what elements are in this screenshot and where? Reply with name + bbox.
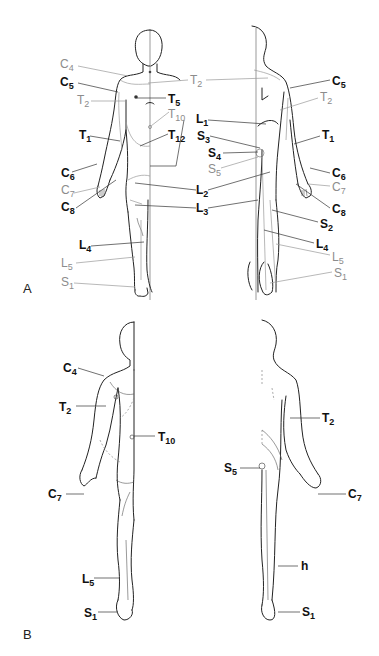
label-a-front-t1: T1	[79, 129, 91, 145]
label-a-back-c7: C7	[332, 181, 346, 197]
label-b-front-c4: C4	[63, 362, 77, 378]
label-b-back-s5: S5	[224, 462, 237, 478]
label-a-back-l4: L4	[316, 238, 328, 254]
panel-a-leader-lines	[72, 66, 332, 287]
label-a-front-c6: C6	[61, 167, 75, 183]
label-a-front-l4: L4	[79, 239, 91, 255]
label-a-back-s1: S1	[334, 267, 347, 283]
label-a-front-l5: L5	[61, 257, 73, 273]
panel-a-back-body	[248, 26, 311, 300]
label-b-front-t2: T2	[59, 401, 71, 417]
label-b-front-c7: C7	[48, 488, 62, 504]
label-a-front-t2: T2	[77, 94, 89, 110]
label-a-center-s3: S3	[197, 130, 210, 146]
label-b-back-h: h	[301, 560, 308, 576]
label-a-front-c5: C5	[60, 76, 74, 92]
label-b-front-t10: T10	[158, 431, 175, 447]
label-a-back-c5: C5	[332, 75, 346, 91]
label-a-back-s2: S2	[320, 218, 333, 234]
label-a-front-t10: T10	[168, 108, 185, 124]
panel-label-a: A	[23, 281, 32, 296]
label-a-center-s5: S5	[208, 163, 221, 179]
label-a-center-s4: S4	[208, 147, 221, 163]
label-a-front-t12: T12	[168, 129, 185, 145]
label-b-front-l5: L5	[82, 573, 94, 589]
label-b-back-t2: T2	[322, 412, 334, 428]
panel-label-b: B	[23, 627, 32, 642]
label-b-front-s1: S1	[84, 607, 97, 623]
label-a-center-l3: L3	[196, 202, 208, 218]
label-a-center-l1: L1	[196, 113, 208, 129]
label-a-back-l5: L5	[332, 251, 344, 267]
label-a-front-c8: C8	[61, 201, 75, 217]
label-a-front-c7: C7	[61, 184, 75, 200]
label-a-back-t1: T1	[322, 129, 334, 145]
label-a-front-s1: S1	[61, 276, 74, 292]
label-b-back-c7: C7	[348, 488, 362, 504]
label-a-center-t2: T2	[190, 74, 202, 90]
label-b-back-s1: S1	[302, 606, 315, 622]
label-a-front-c4: C4	[60, 58, 74, 74]
label-a-center-l2: L2	[196, 184, 208, 200]
panel-b-back-body	[259, 320, 321, 620]
label-a-back-t2: T2	[320, 91, 332, 107]
label-a-back-c8: C8	[332, 203, 346, 219]
